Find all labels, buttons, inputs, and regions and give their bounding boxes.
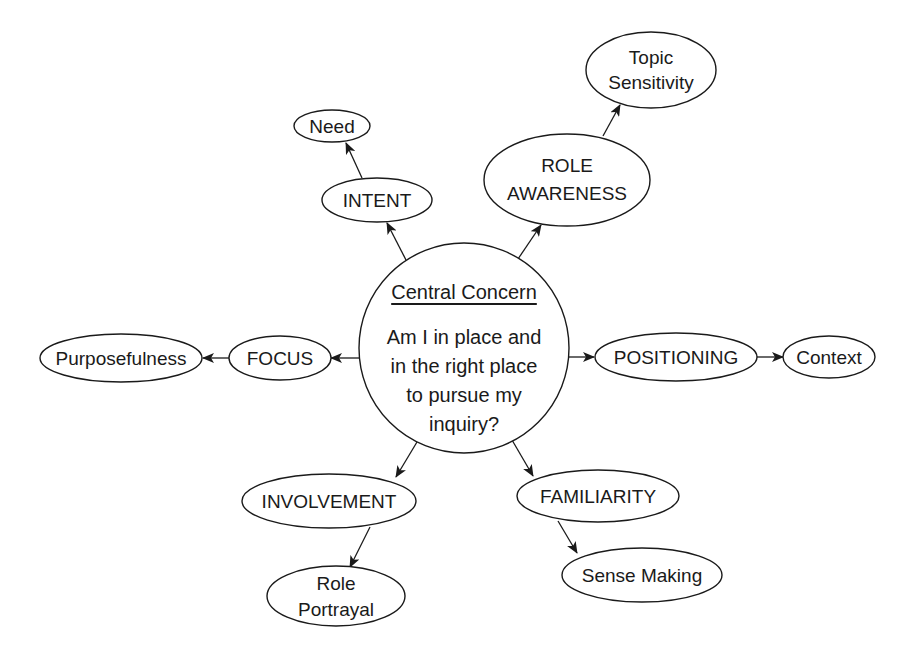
positioning-node: POSITIONING [595, 333, 757, 381]
need-node: Need [294, 110, 370, 142]
involvement-label: INVOLVEMENT [262, 491, 397, 512]
edge-center-involvement [396, 442, 417, 477]
central-concern-line-3: to pursue my [406, 384, 522, 406]
topic-sensitivity-label-1: Topic [629, 47, 673, 68]
central-concern-line-1: Am I in place and [387, 326, 542, 348]
central-concern-line-4: inquiry? [429, 413, 499, 435]
edge-role-awareness-topic-sensitivity [603, 105, 620, 136]
edge-involvement-role-portrayal [350, 527, 370, 567]
focus-label: FOCUS [247, 348, 314, 369]
role-portrayal-node: Role Portrayal [267, 566, 405, 626]
edge-intent-need [346, 143, 362, 178]
edge-center-familiarity [512, 440, 533, 476]
topic-sensitivity-label-2: Sensitivity [608, 72, 694, 93]
positioning-label: POSITIONING [614, 347, 739, 368]
involvement-node: INVOLVEMENT [242, 474, 416, 528]
context-label: Context [796, 347, 862, 368]
purposefulness-label: Purposefulness [56, 348, 187, 369]
role-portrayal-label-2: Portrayal [298, 599, 374, 620]
central-concern-title: Central Concern [391, 281, 537, 303]
role-awareness-label-2: AWARENESS [507, 183, 627, 204]
need-label: Need [309, 116, 354, 137]
intent-label: INTENT [343, 190, 412, 211]
familiarity-node: FAMILIARITY [517, 470, 679, 522]
familiarity-label: FAMILIARITY [540, 486, 656, 507]
edge-center-intent [387, 223, 406, 260]
edge-familiarity-sense-making [558, 521, 577, 553]
intent-node: INTENT [322, 178, 432, 222]
role-awareness-label-1: ROLE [541, 155, 593, 176]
central-concern-node: Central Concern Am I in place and in the… [359, 243, 569, 453]
sense-making-label: Sense Making [582, 565, 702, 586]
topic-sensitivity-node: Topic Sensitivity [586, 32, 716, 108]
concept-map: Central Concern Am I in place and in the… [0, 0, 905, 655]
edge-center-role-awareness [518, 225, 541, 259]
role-awareness-node: ROLE AWARENESS [484, 134, 650, 226]
purposefulness-node: Purposefulness [40, 334, 202, 382]
sense-making-node: Sense Making [562, 548, 722, 602]
focus-node: FOCUS [229, 336, 331, 380]
role-portrayal-label-1: Role [316, 573, 355, 594]
central-concern-line-2: in the right place [391, 355, 538, 377]
context-node: Context [783, 336, 875, 378]
